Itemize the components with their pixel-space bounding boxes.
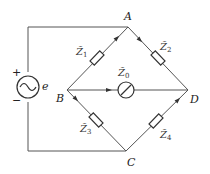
node-label-d: D — [189, 93, 199, 106]
source-minus-sign: − — [12, 94, 21, 107]
source-label-e: e — [42, 80, 49, 93]
arrow-b-to-d-icon — [106, 88, 112, 92]
impedance-label-z0: Z̃0 — [117, 67, 129, 80]
bottom-wire — [28, 102, 126, 151]
impedance-z4-icon — [149, 114, 163, 128]
impedance-label-z4: Z̃4 — [159, 129, 172, 142]
galvanometer-icon — [118, 82, 134, 98]
impedance-label-z3: Z̃3 — [79, 123, 91, 136]
source-plus-sign: + — [12, 66, 21, 79]
bridge-circuit-diagram: + − e A B C D Z̃1 Z̃2 Z̃0 Z̃3 Z̃4 — [0, 0, 210, 174]
node-label-b: B — [55, 92, 64, 105]
impedance-label-z1: Z̃1 — [75, 46, 87, 59]
node-label-a: A — [123, 10, 132, 23]
impedance-z1-icon — [90, 51, 104, 65]
impedance-z3-icon — [89, 113, 103, 127]
impedance-label-z2: Z̃2 — [159, 41, 171, 54]
node-label-c: C — [127, 156, 136, 169]
impedance-z2-icon — [151, 51, 165, 65]
